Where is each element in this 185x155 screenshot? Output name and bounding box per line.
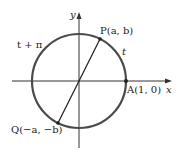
y-axis-label: y	[69, 9, 76, 20]
arc-t-label: t	[122, 46, 127, 57]
x-axis-arrow-icon	[165, 79, 172, 84]
point-p-label: P(a, b)	[100, 25, 133, 36]
arc-t-plus-pi-label: t + π	[17, 39, 43, 50]
unit-circle-diagram: y x P(a, b) A(1, 0) Q(−a, −b) t t + π	[0, 0, 185, 155]
point-a-label: A(1, 0)	[126, 84, 161, 95]
x-axis-label: x	[166, 84, 172, 95]
point-q-label: Q(−a, −b)	[11, 124, 63, 135]
point-p	[98, 37, 102, 41]
y-axis-arrow-icon	[77, 12, 82, 19]
point-a	[124, 79, 128, 83]
